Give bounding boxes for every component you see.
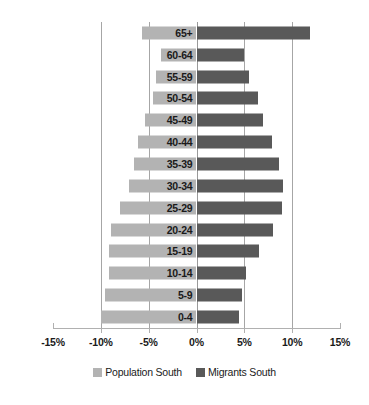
chart-row: 0-4 [53,306,340,328]
chart-row: 35-39 [53,153,340,175]
category-label-60-64: 60-64 [167,50,193,61]
category-label-0-4: 0-4 [178,312,193,323]
chart-row: 5-9 [53,284,340,306]
axis-tick-label: -15% [41,336,65,348]
bar-migrants-south [197,245,259,258]
axis-tick-label: -10% [89,336,113,348]
bar-migrants-south [197,92,258,105]
legend-label: Population South [105,366,182,378]
bar-migrants-south [197,289,243,302]
chart-row: 65+ [53,22,340,44]
category-label-20-24: 20-24 [167,224,193,235]
category-label-10-14: 10-14 [167,268,193,279]
axis-tick-label: 0% [189,336,204,348]
legend-swatch-icon [196,368,205,377]
bar-migrants-south [197,114,264,127]
axis-tick [292,328,293,333]
bar-migrants-south [197,26,311,39]
bar-migrants-south [197,311,239,324]
chart-row: 45-49 [53,109,340,131]
category-label-5-9: 5-9 [178,290,193,301]
legend-swatch-icon [93,368,102,377]
category-label-35-39: 35-39 [167,159,193,170]
legend-entry: Population South [93,366,182,378]
axis-tick [149,328,150,333]
bar-migrants-south [197,201,282,214]
chart-legend: Population SouthMigrants South [0,366,369,378]
population-pyramid-chart: 65+60-6455-5950-5445-4940-4435-3930-3425… [0,0,369,405]
category-label-50-54: 50-54 [167,93,193,104]
axis-tick [101,328,102,333]
axis-tick-label: 5% [237,336,252,348]
bar-migrants-south [197,136,273,149]
category-label-30-34: 30-34 [167,181,193,192]
chart-row: 60-64 [53,44,340,66]
chart-row: 50-54 [53,88,340,110]
axis-end-cap [340,323,341,329]
axis-tick [197,328,198,333]
legend-entry: Migrants South [196,366,276,378]
chart-row: 20-24 [53,219,340,241]
legend-label: Migrants South [208,366,276,378]
axis-tick [244,328,245,333]
axis-end-cap [53,323,54,329]
plot-area: 65+60-6455-5950-5445-4940-4435-3930-3425… [53,22,340,328]
bar-migrants-south [197,223,274,236]
bar-migrants-south [197,158,279,171]
chart-row: 10-14 [53,262,340,284]
bar-migrants-south [197,267,247,280]
category-label-45-49: 45-49 [167,115,193,126]
chart-row: 40-44 [53,131,340,153]
chart-row: 15-19 [53,241,340,263]
category-label-15-19: 15-19 [167,246,193,257]
category-label-65plus: 65+ [175,28,192,39]
bar-migrants-south [197,48,245,61]
axis-tick-label: -5% [140,336,158,348]
axis-tick-label: 10% [282,336,302,348]
bar-migrants-south [197,70,250,83]
category-label-55-59: 55-59 [167,71,193,82]
chart-row: 25-29 [53,197,340,219]
category-label-40-44: 40-44 [167,137,193,148]
chart-row: 55-59 [53,66,340,88]
chart-row: 30-34 [53,175,340,197]
axis-tick-label: 15% [330,336,350,348]
bar-migrants-south [197,179,283,192]
category-label-25-29: 25-29 [167,203,193,214]
